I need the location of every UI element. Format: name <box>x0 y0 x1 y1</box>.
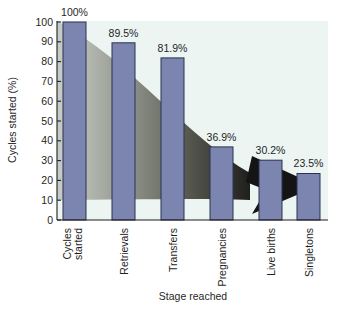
x-label-singletons: Singletons <box>303 228 315 277</box>
bar-live-births[interactable] <box>259 160 282 220</box>
x-axis-title: Stage reached <box>159 290 227 302</box>
y-tick-label-50: 50 <box>41 115 53 127</box>
bar-pregnancies[interactable] <box>210 147 233 220</box>
value-label-transfers: 81.9% <box>158 42 188 54</box>
bar-transfers[interactable] <box>161 58 184 220</box>
y-tick-label-90: 90 <box>41 35 53 47</box>
bar-chart-svg: 100% 89.5% 81.9% 36.9% 30.2% 23.5% <box>0 0 341 313</box>
x-label-retrievals: Retrievals <box>118 228 130 275</box>
chart-figure: 100% 89.5% 81.9% 36.9% 30.2% 23.5% <box>0 0 341 313</box>
value-label-singletons: 23.5% <box>294 157 324 169</box>
y-tick-label-0: 0 <box>47 214 53 226</box>
bar-singletons[interactable] <box>297 174 320 221</box>
value-label-pregnancies: 36.9% <box>207 131 237 143</box>
x-label-pregnancies: Pregnancies <box>216 228 228 286</box>
y-tick-label-10: 10 <box>41 194 53 206</box>
y-tick-label-20: 20 <box>41 174 53 186</box>
y-tick-label-40: 40 <box>41 134 53 146</box>
y-tick-label-70: 70 <box>41 75 53 87</box>
value-label-live-births: 30.2% <box>256 144 286 156</box>
value-label-retrievals: 89.5% <box>109 27 139 39</box>
value-label-cycles-started: 100% <box>61 6 88 18</box>
y-tick-label-60: 60 <box>41 95 53 107</box>
x-label-cycles-started-line2: started <box>72 228 84 260</box>
y-axis-title: Cycles started (%) <box>6 77 18 163</box>
y-tick-label-30: 30 <box>41 154 53 166</box>
bar-cycles-started[interactable] <box>63 22 86 220</box>
y-tick-label-80: 80 <box>41 55 53 67</box>
bar-retrievals[interactable] <box>112 43 135 220</box>
x-label-transfers: Transfers <box>167 228 179 272</box>
y-tick-label-100: 100 <box>35 16 53 28</box>
x-label-live-births: Live births <box>265 228 277 276</box>
